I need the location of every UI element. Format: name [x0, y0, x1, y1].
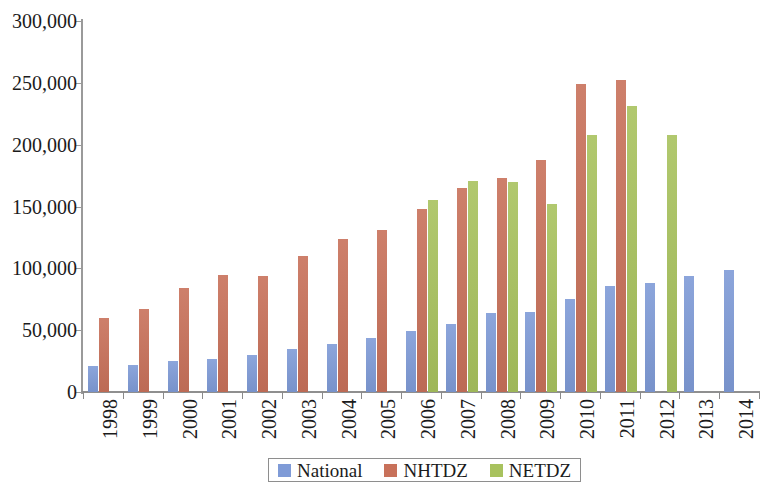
- bar-nhtdz-2006: [417, 209, 427, 392]
- legend-item-netdz[interactable]: NETDZ: [490, 461, 571, 480]
- x-axis-tick-mark: [401, 392, 402, 399]
- bar-group: [241, 21, 281, 392]
- legend-swatch-national: [278, 464, 291, 477]
- bar-national-2006: [406, 331, 416, 392]
- bar-group: [480, 21, 520, 392]
- x-axis-tick-mark: [719, 392, 720, 399]
- bar-group-bars: [122, 21, 162, 392]
- bar-nhtdz-2005: [377, 230, 387, 392]
- x-axis-tick-label: 2006: [418, 399, 438, 439]
- bar-group-bars: [241, 21, 281, 392]
- bar-national-2001: [207, 359, 217, 392]
- bar-group-bars: [678, 21, 718, 392]
- bar-group-bars: [440, 21, 480, 392]
- bar-netdz-2010: [587, 135, 597, 392]
- x-axis-tick-label: 2002: [259, 399, 279, 439]
- x-axis-tick-mark: [322, 392, 323, 399]
- bar-national-2000: [168, 361, 178, 392]
- bar-group-bars: [519, 21, 559, 392]
- bar-group: [639, 21, 679, 392]
- bar-nhtdz-2003: [298, 256, 308, 392]
- x-axis-tick-label: 1999: [140, 399, 160, 439]
- bar-nhtdz-1998: [99, 318, 109, 392]
- y-axis-tick-label: 250,000: [12, 73, 77, 93]
- x-axis-tick-mark: [202, 392, 203, 399]
- y-axis-tick-label: 50,000: [22, 320, 77, 340]
- bar-netdz-2009: [547, 204, 557, 392]
- bar-national-2009: [525, 312, 535, 392]
- bar-group: [360, 21, 400, 392]
- bar-group-bars: [360, 21, 400, 392]
- bar-group-bars: [321, 21, 361, 392]
- bar-group-bars: [82, 21, 122, 392]
- x-axis-tick-label: 2000: [180, 399, 200, 439]
- bar-group: [122, 21, 162, 392]
- bar-nhtdz-2001: [218, 275, 228, 392]
- bar-nhtdz-2011: [616, 80, 626, 392]
- y-axis-tick-label: 300,000: [12, 11, 77, 31]
- bar-netdz-2007: [468, 181, 478, 392]
- bar-group-bars: [718, 21, 758, 392]
- x-axis-tick-mark: [640, 392, 641, 399]
- x-axis-tick-mark: [83, 392, 84, 399]
- x-axis-tick-mark: [560, 392, 561, 399]
- bar-group: [281, 21, 321, 392]
- bar-netdz-2008: [508, 182, 518, 392]
- bar-group: [599, 21, 639, 392]
- x-axis-tick-label: 2009: [537, 399, 557, 439]
- legend-swatch-netdz: [490, 464, 503, 477]
- legend-item-nhtdz[interactable]: NHTDZ: [384, 461, 467, 480]
- bar-group: [162, 21, 202, 392]
- bar-national-2007: [446, 324, 456, 392]
- bar-group: [321, 21, 361, 392]
- y-axis-tick-label: 0: [67, 382, 77, 402]
- bar-netdz-2006: [428, 200, 438, 392]
- bar-group-bars: [201, 21, 241, 392]
- bar-national-2012: [645, 283, 655, 392]
- x-axis-tick-label: 2010: [577, 399, 597, 439]
- bar-group-bars: [639, 21, 679, 392]
- bar-nhtdz-2007: [457, 188, 467, 392]
- x-axis-tick-mark: [163, 392, 164, 399]
- bar-national-1999: [128, 365, 138, 392]
- x-axis-tick-mark: [679, 392, 680, 399]
- x-axis-tick-mark: [123, 392, 124, 399]
- x-axis-tick-mark: [242, 392, 243, 399]
- x-axis-tick-label: 2012: [657, 399, 677, 439]
- bar-group: [82, 21, 122, 392]
- x-axis-tick-mark: [759, 392, 760, 399]
- x-axis-tick-label: 2008: [498, 399, 518, 439]
- x-axis-tick-mark: [441, 392, 442, 399]
- x-axis-tick-label: 2014: [736, 399, 756, 439]
- bar-nhtdz-2009: [536, 160, 546, 392]
- bar-group-bars: [162, 21, 202, 392]
- legend-label-netdz: NETDZ: [509, 461, 571, 480]
- bar-netdz-2012: [667, 135, 677, 392]
- x-axis-tick-mark: [600, 392, 601, 399]
- x-axis-tick-label: 2007: [458, 399, 478, 439]
- bar-nhtdz-2008: [497, 178, 507, 392]
- bar-group-bars: [400, 21, 440, 392]
- bar-national-2013: [684, 276, 694, 392]
- bar-group: [718, 21, 758, 392]
- bar-group-bars: [599, 21, 639, 392]
- y-axis-tick-label: 200,000: [12, 135, 77, 155]
- y-axis-tick-label: 100,000: [12, 258, 77, 278]
- bar-nhtdz-2002: [258, 276, 268, 392]
- bar-nhtdz-2010: [576, 84, 586, 392]
- x-axis-tick-mark: [282, 392, 283, 399]
- x-axis-tick-mark: [481, 392, 482, 399]
- x-axis-tick-mark: [520, 392, 521, 399]
- legend-item-national[interactable]: National: [278, 461, 362, 480]
- bar-national-2014: [724, 270, 734, 392]
- legend-label-national: National: [297, 461, 362, 480]
- x-axis-tick-mark: [361, 392, 362, 399]
- bar-national-1998: [88, 366, 98, 392]
- bar-group: [678, 21, 718, 392]
- bar-group: [400, 21, 440, 392]
- bar-national-2004: [327, 344, 337, 392]
- bar-national-2005: [366, 338, 376, 392]
- bar-netdz-2011: [627, 106, 637, 392]
- x-axis-tick-label: 1998: [100, 399, 120, 439]
- legend-label-nhtdz: NHTDZ: [403, 461, 467, 480]
